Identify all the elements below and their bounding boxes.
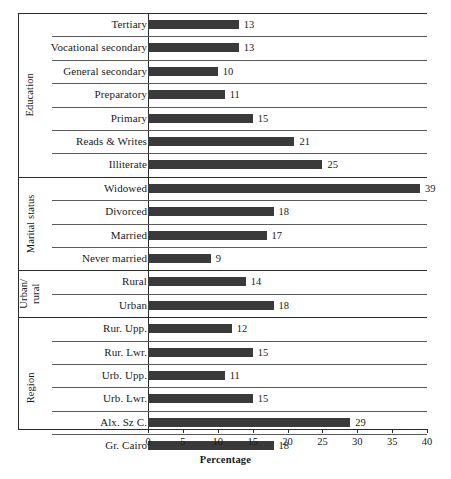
bar-row: Married17 <box>18 224 427 247</box>
category-label: Never married <box>82 247 147 270</box>
x-axis-tick-label: 20 <box>282 436 293 447</box>
bar-value-label: 13 <box>244 13 255 36</box>
bar-row: Illiterate25 <box>18 153 427 176</box>
category-label: Tertiary <box>112 13 147 36</box>
category-label: Rur. Lwr. <box>104 341 147 364</box>
bar <box>148 160 322 169</box>
bar <box>148 20 239 29</box>
bar-row: Primary15 <box>18 107 427 130</box>
x-axis-title: Percentage <box>0 454 451 465</box>
x-axis-tick <box>357 429 358 433</box>
x-axis-tick-label: 40 <box>422 436 433 447</box>
bar-row: Rur. Lwr.15 <box>18 341 427 364</box>
bar <box>148 43 239 52</box>
category-label: Married <box>111 224 147 247</box>
bar-row: Widowed39 <box>18 177 427 200</box>
bar-row: Tertiary13 <box>18 13 427 36</box>
x-axis-tick-label: 35 <box>387 436 398 447</box>
bar <box>148 324 232 333</box>
category-label: Divorced <box>105 200 147 223</box>
bar-row: Rural14 <box>18 270 427 293</box>
x-axis-tick-label: 5 <box>180 436 185 447</box>
category-label: Widowed <box>104 177 147 200</box>
bar-value-label: 13 <box>244 36 255 59</box>
x-axis-tick <box>288 429 289 433</box>
bar-value-label: 18 <box>279 294 290 317</box>
category-label: Illiterate <box>109 153 147 176</box>
bar <box>148 231 267 240</box>
category-group: Marital statusWidowed39Divorced18Married… <box>18 177 427 271</box>
bar-row: Urb. Lwr.15 <box>18 387 427 410</box>
bar-value-label: 11 <box>230 83 240 106</box>
category-group: Urban/ ruralRural14Urban18 <box>18 270 427 317</box>
bar-row: Preparatory11 <box>18 83 427 106</box>
x-axis-tick <box>427 429 428 433</box>
bar <box>148 277 246 286</box>
bar <box>148 90 225 99</box>
bar-value-label: 10 <box>223 60 234 83</box>
category-label: General secondary <box>63 60 147 83</box>
bar <box>148 207 274 216</box>
x-axis-tick <box>218 429 219 433</box>
bar <box>148 137 294 146</box>
x-axis-tick-label: 15 <box>247 436 258 447</box>
bar <box>148 67 218 76</box>
x-axis-tick-label: 10 <box>213 436 224 447</box>
bar-value-label: 9 <box>216 247 221 270</box>
bar-value-label: 18 <box>279 200 290 223</box>
category-label: Alx. Sz C. <box>100 411 147 434</box>
bar <box>148 301 274 310</box>
bar <box>148 418 350 427</box>
bar <box>148 114 253 123</box>
bar <box>148 371 225 380</box>
x-axis-tick <box>322 429 323 433</box>
row-divider <box>52 224 427 225</box>
category-label: Urb. Upp. <box>102 364 147 387</box>
category-group: EducationTertiary13Vocational secondary1… <box>18 13 427 177</box>
bar-value-label: 17 <box>272 224 283 247</box>
bar-row: Alx. Sz C.29 <box>18 411 427 434</box>
bar-row: Rur. Upp.12 <box>18 317 427 340</box>
category-label: Vocational secondary <box>51 36 147 59</box>
x-axis-tick-label: 0 <box>145 436 150 447</box>
bar-value-label: 15 <box>258 387 269 410</box>
bar-value-label: 25 <box>327 153 338 176</box>
bar <box>148 184 420 193</box>
category-label: Reads & Writes <box>76 130 147 153</box>
bar-value-label: 15 <box>258 341 269 364</box>
bar-value-label: 15 <box>258 107 269 130</box>
bar-row: Vocational secondary13 <box>18 36 427 59</box>
bar-value-label: 39 <box>425 177 436 200</box>
x-axis-tick <box>183 429 184 433</box>
category-label: Preparatory <box>95 83 147 106</box>
bar-value-label: 21 <box>299 130 310 153</box>
x-axis-tick <box>148 429 149 433</box>
category-label: Rur. Upp. <box>103 317 147 340</box>
category-label: Primary <box>111 107 147 130</box>
x-axis-tick <box>253 429 254 433</box>
x-axis-tick-label: 30 <box>352 436 363 447</box>
bar <box>148 348 253 357</box>
bar-row: Never married9 <box>18 247 427 270</box>
bar-value-label: 12 <box>237 317 248 340</box>
bar-chart: EducationTertiary13Vocational secondary1… <box>0 0 451 479</box>
x-axis-tick <box>392 429 393 433</box>
category-label: Urban <box>119 294 147 317</box>
bar-row: Reads & Writes21 <box>18 130 427 153</box>
x-axis-tick-label: 25 <box>317 436 328 447</box>
row-divider <box>52 294 427 295</box>
category-label: Rural <box>122 270 147 293</box>
bar-value-label: 11 <box>230 364 240 387</box>
row-divider <box>52 107 427 108</box>
bar <box>148 394 253 403</box>
bar-row: Urb. Upp.11 <box>18 364 427 387</box>
bar-row: Divorced18 <box>18 200 427 223</box>
category-label: Urb. Lwr. <box>103 387 147 410</box>
bar-value-label: 14 <box>251 270 262 293</box>
bar-row: General secondary10 <box>18 60 427 83</box>
bar-row: Urban18 <box>18 294 427 317</box>
bar <box>148 254 211 263</box>
